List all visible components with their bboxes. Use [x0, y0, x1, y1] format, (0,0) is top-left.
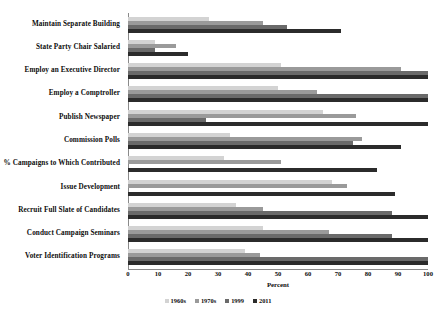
bar — [128, 238, 428, 242]
bar-group — [128, 63, 428, 79]
bar — [128, 184, 347, 188]
bar-group — [128, 180, 428, 196]
x-tick-label: 80 — [365, 271, 372, 278]
legend-swatch-icon — [195, 299, 199, 303]
legend-item[interactable]: 1999 — [225, 298, 244, 304]
legend-label: 1960s — [171, 298, 186, 304]
chart-legend: 1960s1970s19992011 — [0, 298, 436, 304]
legend-label: 1970s — [201, 298, 216, 304]
x-tick-label: 10 — [155, 271, 162, 278]
x-tick-label: 50 — [275, 271, 282, 278]
category-label: Issue Development — [61, 184, 120, 191]
bar-group — [128, 203, 428, 219]
bar-group — [128, 133, 428, 149]
category-label: Employ an Executive Director — [25, 68, 121, 75]
bar — [128, 52, 188, 56]
plot-area — [128, 13, 428, 269]
legend-label: 2011 — [259, 298, 271, 304]
legend-swatch-icon — [225, 299, 229, 303]
bar — [128, 261, 428, 265]
legend-label: 1999 — [231, 298, 244, 304]
bar-group — [128, 110, 428, 126]
category-axis-labels: Maintain Separate BuildingState Party Ch… — [0, 13, 124, 269]
x-tick-label: 20 — [185, 271, 192, 278]
x-axis-title: Percent — [128, 282, 428, 289]
category-label: Conduct Campaign Seminars — [27, 230, 120, 237]
bar-group — [128, 226, 428, 242]
category-label: Voter Identification Programs — [25, 254, 120, 261]
category-label: Maintain Separate Building — [32, 21, 120, 28]
bar — [128, 98, 428, 102]
legend-swatch-icon — [165, 299, 169, 303]
bar-chart: Maintain Separate BuildingState Party Ch… — [0, 0, 436, 318]
bar — [128, 75, 428, 79]
x-tick-label: 60 — [305, 271, 312, 278]
category-label: State Party Chair Salaried — [36, 44, 120, 51]
category-label: Employ a Comptroller — [49, 91, 120, 98]
bar-group — [128, 86, 428, 102]
legend-item[interactable]: 1960s — [165, 298, 186, 304]
x-tick-label: 90 — [395, 271, 402, 278]
legend-item[interactable]: 1970s — [195, 298, 216, 304]
x-tick-label: 70 — [335, 271, 342, 278]
bar-group — [128, 40, 428, 56]
bar — [128, 215, 428, 219]
bar — [128, 29, 341, 33]
category-label: % Campaigns to Which Contributed — [4, 161, 121, 168]
legend-swatch-icon — [253, 299, 257, 303]
bar — [128, 168, 377, 172]
bar-group — [128, 17, 428, 33]
bar — [128, 145, 401, 149]
category-label: Commission Polls — [64, 137, 120, 144]
x-tick-label: 40 — [245, 271, 252, 278]
legend-item[interactable]: 2011 — [253, 298, 271, 304]
bar — [128, 122, 428, 126]
bar-group — [128, 156, 428, 172]
x-tick-label: 0 — [126, 271, 129, 278]
bar — [128, 160, 281, 164]
bar — [128, 192, 395, 196]
category-label: Recruit Full Slate of Candidates — [18, 207, 120, 214]
x-tick-label: 100 — [423, 271, 433, 278]
bar-group — [128, 249, 428, 265]
category-label: Publish Newspaper — [59, 114, 120, 121]
x-tick-label: 30 — [215, 271, 222, 278]
